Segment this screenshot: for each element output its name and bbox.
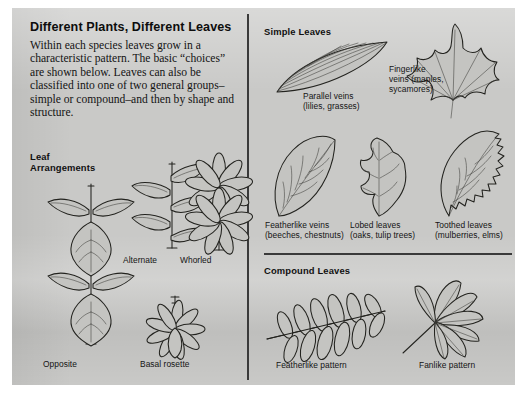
compound-section: Compound Leaves bbox=[261, 253, 515, 385]
right-panel: Simple Leaves Parallel veins (lilies, gr… bbox=[261, 8, 515, 385]
caption-lobed-leaves: Lobed leaves (oaks, tulip trees) bbox=[350, 221, 415, 241]
horizontal-divider bbox=[264, 253, 512, 255]
caption-toothed-leaves: Toothed leaves (mulberries, elms) bbox=[435, 221, 503, 241]
figure-featherlike-vein-leaf bbox=[265, 132, 343, 220]
figure-toothed-leaf bbox=[433, 128, 513, 220]
caption-opposite: Opposite bbox=[43, 360, 77, 370]
figure-parallel-vein-leaf bbox=[273, 40, 393, 98]
caption-parallel-veins: Parallel veins (lilies, grasses) bbox=[303, 92, 360, 112]
figure-palmate-compound-leaf bbox=[401, 275, 511, 359]
page-title: Different Plants, Different Leaves bbox=[30, 20, 240, 34]
caption-parallel-veins-line2: (lilies, grasses) bbox=[303, 102, 360, 112]
caption-basal-rosette: Basal rosette bbox=[140, 360, 190, 370]
section-heading-simple-leaves: Simple Leaves bbox=[264, 26, 331, 37]
caption-toothed-leaves-line2: (mulberries, elms) bbox=[435, 231, 503, 241]
figure-pinnate-compound-leaf bbox=[265, 281, 391, 357]
figure-lobed-leaf bbox=[349, 134, 417, 220]
caption-fanlike-pattern: Fanlike pattern bbox=[419, 361, 475, 371]
figure-whorled-arrangement bbox=[178, 158, 262, 254]
caption-featherlike-pattern: Featherlike pattern bbox=[276, 361, 347, 371]
figure-basal-rosette-arrangement bbox=[135, 294, 215, 360]
caption-alternate: Alternate bbox=[123, 256, 157, 266]
caption-featherlike-veins-line2: (beeches, chestnuts) bbox=[265, 231, 344, 241]
caption-fingerlike-veins-line3: sycamores) bbox=[389, 85, 444, 95]
left-panel: Different Plants, Different Leaves Withi… bbox=[12, 8, 248, 385]
section-heading-compound-leaves: Compound Leaves bbox=[264, 265, 350, 276]
diagram-page: Different Plants, Different Leaves Withi… bbox=[12, 8, 515, 385]
intro-paragraph: Within each species leaves grow in a cha… bbox=[30, 39, 235, 119]
caption-lobed-leaves-line2: (oaks, tulip trees) bbox=[350, 231, 415, 241]
caption-whorled: Whorled bbox=[180, 256, 212, 266]
caption-featherlike-veins: Featherlike veins (beeches, chestnuts) bbox=[265, 221, 344, 241]
caption-fingerlike-veins: Fingerlike veins (maples, sycamores) bbox=[389, 65, 444, 94]
